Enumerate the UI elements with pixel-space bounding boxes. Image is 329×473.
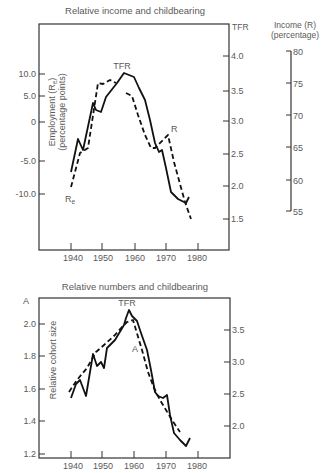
top-re-label: Re: [65, 194, 76, 205]
bottom-x-axis: 1940 1950 1960 1970 1980: [63, 451, 207, 471]
svg-text:2.0: 2.0: [231, 181, 244, 191]
top-x-axis: 1940 1950 1960 1970 1980: [63, 243, 207, 263]
top-tfr-line: [71, 73, 189, 203]
svg-text:55: 55: [293, 207, 303, 217]
top-re-line: [71, 80, 116, 187]
svg-text:1960: 1960: [125, 253, 145, 263]
top-chart-frame: [39, 24, 229, 250]
bottom-a-line: [69, 320, 180, 432]
svg-text:3.0: 3.0: [231, 116, 244, 126]
bottom-tfr-label: TFR: [118, 298, 136, 308]
top-r-label: R: [171, 124, 178, 134]
top-left-tick: -5.0: [20, 156, 36, 166]
svg-text:1970: 1970: [156, 253, 176, 263]
bottom-a-label: A: [132, 344, 138, 354]
svg-text:2.0: 2.0: [23, 319, 36, 329]
svg-text:A: A: [23, 296, 29, 306]
svg-text:1.6: 1.6: [23, 384, 36, 394]
svg-text:3.5: 3.5: [232, 325, 245, 335]
svg-text:1.4: 1.4: [23, 416, 36, 426]
svg-text:3.0: 3.0: [232, 357, 245, 367]
svg-text:75: 75: [293, 79, 303, 89]
top-income-axis: Income (R) (percentage) 80 75 70 65 60 5…: [271, 20, 319, 217]
top-left-tick: 0: [31, 117, 36, 127]
top-right-tfr-axis: TFR 4.0 3.5 3.0 2.5 2.0 1.5: [223, 22, 249, 224]
svg-text:1950: 1950: [93, 461, 113, 471]
svg-text:(percentage points): (percentage points): [57, 73, 67, 151]
svg-text:2.5: 2.5: [232, 389, 245, 399]
svg-text:1950: 1950: [93, 253, 113, 263]
svg-text:3.5: 3.5: [231, 86, 244, 96]
svg-text:1940: 1940: [63, 461, 83, 471]
svg-text:1980: 1980: [187, 253, 207, 263]
bottom-tfr-line: [71, 310, 190, 446]
svg-text:1970: 1970: [156, 461, 176, 471]
bottom-left-axis-label: Relative cohort size: [48, 321, 58, 400]
bottom-left-axis: A 2.0 1.8 1.6 1.4 1.2: [23, 296, 45, 459]
svg-text:1960: 1960: [124, 461, 144, 471]
svg-text:1940: 1940: [63, 253, 83, 263]
top-left-tick: -10.0: [15, 189, 36, 199]
svg-text:60: 60: [293, 176, 303, 186]
svg-text:1980: 1980: [187, 461, 207, 471]
svg-text:4.0: 4.0: [231, 51, 244, 61]
bottom-chart-title: Relative numbers and childbearing: [62, 281, 208, 292]
bottom-right-tfr-axis: 3.5 3.0 2.5 2.0: [224, 325, 245, 431]
svg-text:1.5: 1.5: [231, 214, 244, 224]
svg-text:70: 70: [293, 111, 303, 121]
figure: Relative income and childbearing 10.0 5.…: [0, 0, 329, 473]
svg-text:Income (R): Income (R): [274, 20, 316, 30]
svg-text:(percentage): (percentage): [271, 30, 319, 40]
svg-text:80: 80: [293, 47, 303, 57]
svg-text:1.8: 1.8: [23, 351, 36, 361]
top-left-axis: 10.0 5.0 0 -5.0 -10.0: [15, 69, 45, 199]
top-left-tick: 5.0: [23, 91, 36, 101]
top-left-tick: 10.0: [18, 69, 36, 79]
svg-text:TFR: TFR: [232, 22, 249, 32]
svg-text:2.0: 2.0: [232, 421, 245, 431]
top-left-axis-label: Employment (Re) (percentage points): [47, 73, 67, 151]
svg-text:1.2: 1.2: [23, 449, 36, 459]
svg-text:2.5: 2.5: [231, 149, 244, 159]
top-tfr-label: TFR: [113, 61, 131, 71]
svg-text:65: 65: [293, 143, 303, 153]
top-chart-title: Relative income and childbearing: [65, 5, 205, 16]
